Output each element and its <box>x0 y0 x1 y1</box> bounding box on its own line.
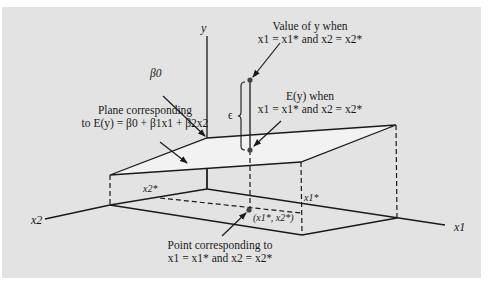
value-of-y-label: Value of y when x1 = x1* and x2 = x2* <box>235 20 385 46</box>
regression-plane <box>110 125 396 175</box>
expected-y-label: E(y) when x1 = x1* and x2 = x2* <box>235 90 385 116</box>
beta0-label: β0 <box>150 67 161 80</box>
epsilon-label: ϵ <box>228 109 233 122</box>
point-coordinate-label: (x1*, x2*) <box>253 211 294 224</box>
y-axis-label: y <box>201 22 206 34</box>
observed-y-point <box>247 77 252 82</box>
x2-axis-label: x2 <box>31 214 42 226</box>
x1-axis-label: x1 <box>454 221 465 233</box>
expected-y-point <box>247 147 252 152</box>
x2-star-label: x2* <box>143 182 157 195</box>
plane-label: Plane corresponding to E(y) = β0 + β1x1 … <box>45 104 245 130</box>
point-label: Point corresponding to x1 = x1* and x2 =… <box>130 239 310 265</box>
x2-axis <box>45 205 110 219</box>
x1-star-label: x1* <box>304 191 318 204</box>
x-point <box>246 207 251 212</box>
